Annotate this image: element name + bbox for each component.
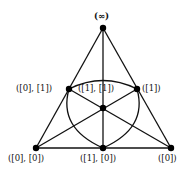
label-n1: ([1]) [142, 83, 161, 93]
node-n10 [100, 145, 106, 151]
node-n01 [66, 86, 72, 92]
label-inf: (∞) [94, 11, 109, 21]
node-inf [100, 25, 106, 31]
label-n11: ([1], [1]) [78, 83, 114, 93]
node-n0 [168, 145, 174, 151]
node-n1 [134, 86, 140, 92]
node-n00 [33, 145, 39, 151]
label-n0: ([0]) [158, 153, 177, 163]
label-n00: ([0], [0]) [8, 153, 44, 163]
label-n01: ([0], [1]) [16, 83, 52, 93]
node-n11 [100, 105, 106, 111]
label-n10: ([1], [0]) [80, 153, 116, 163]
